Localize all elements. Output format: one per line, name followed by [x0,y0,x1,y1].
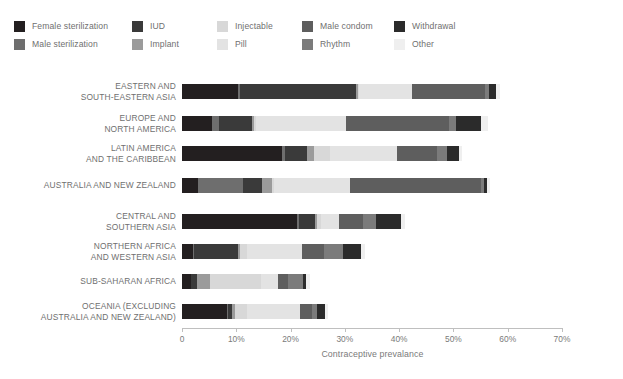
legend-item[interactable]: Implant [132,35,217,53]
bar-segment-female-sterilization[interactable] [182,304,227,319]
stacked-bar[interactable] [182,214,405,229]
legend-item[interactable]: Female sterilization [14,17,132,35]
stacked-bar-chart: Female sterilizationMale sterilizationIU… [0,0,623,379]
bar-segment-male-condom[interactable] [339,214,362,229]
legend-swatch-male-condom [302,21,313,32]
bar-segment-rhythm[interactable] [324,244,343,259]
bar-row [182,304,562,319]
bar-segment-female-sterilization[interactable] [182,178,198,193]
bar-segment-implant[interactable] [262,178,272,193]
bar-segment-pill[interactable] [256,116,346,131]
bar-row [182,146,562,161]
bar-segment-injectable[interactable] [210,274,261,289]
legend-item-label: Implant [150,39,179,50]
bar-segment-iud[interactable] [219,116,252,131]
category-label-line: AUSTRALIA AND NEW ZEALAND [8,180,176,190]
stacked-bar[interactable] [182,304,328,319]
x-tick-mark [291,328,292,332]
category-label-line: AND THE CARIBBEAN [8,154,176,164]
bar-row [182,244,562,259]
bar-segment-implant[interactable] [197,274,210,289]
bar-row [182,178,562,193]
bar-segment-female-sterilization[interactable] [182,116,212,131]
stacked-bar[interactable] [182,274,310,289]
category-label-line: NORTH AMERICA [8,124,176,134]
bar-segment-male-condom[interactable] [412,84,486,99]
bar-segment-male-sterilization[interactable] [198,178,244,193]
bar-segment-pill[interactable] [359,84,411,99]
bar-segment-other[interactable] [306,274,309,289]
bar-segment-rhythm[interactable] [363,214,377,229]
bar-segment-other[interactable] [325,304,328,319]
bar-segment-withdrawal[interactable] [447,146,459,161]
bar-segment-injectable[interactable] [240,244,247,259]
bar-segment-rhythm[interactable] [437,146,447,161]
bar-segment-withdrawal[interactable] [317,304,325,319]
bar-segment-rhythm[interactable] [288,274,303,289]
bar-segment-pill[interactable] [330,146,397,161]
bar-segment-iud[interactable] [299,214,315,229]
stacked-bar[interactable] [182,244,365,259]
x-tick-label: 10% [228,334,245,345]
legend-item[interactable]: Rhythm [302,35,394,53]
bar-segment-female-sterilization[interactable] [182,214,297,229]
legend-item[interactable]: Withdrawal [394,17,494,35]
stacked-bar[interactable] [182,178,490,193]
bar-segment-male-condom[interactable] [278,274,288,289]
bar-segment-female-sterilization[interactable] [182,274,191,289]
bar-segment-iud[interactable] [243,178,262,193]
bar-segment-other[interactable] [459,146,462,161]
bar-segment-iud[interactable] [285,146,307,161]
bar-segment-implant[interactable] [307,146,315,161]
chart-legend: Female sterilizationMale sterilizationIU… [14,17,534,53]
bar-segment-female-sterilization[interactable] [182,244,193,259]
category-axis-labels: EASTERN ANDSOUTH-EASTERN ASIAEUROPE ANDN… [8,74,176,329]
bar-segment-pill[interactable] [261,274,278,289]
legend-swatch-pill [217,39,228,50]
stacked-bar[interactable] [182,84,500,99]
legend-item[interactable]: IUD [132,17,217,35]
x-axis-title: Contraceptive prevalance [182,349,563,359]
category-label-line: AND WESTERN ASIA [8,252,176,262]
legend-item[interactable]: Male condom [302,17,394,35]
bar-segment-pill[interactable] [321,214,339,229]
bar-segment-male-sterilization[interactable] [212,116,219,131]
bar-segment-male-condom[interactable] [300,304,312,319]
x-tick-label: 70% [554,334,571,345]
bar-segment-injectable[interactable] [314,146,330,161]
bar-segment-pill[interactable] [247,304,300,319]
x-tick-mark [453,328,454,332]
category-label: SUB-SAHARAN AFRICA [8,276,176,286]
bar-segment-withdrawal[interactable] [456,116,482,131]
bar-segment-withdrawal[interactable] [376,214,401,229]
stacked-bar[interactable] [182,116,488,131]
legend-item[interactable]: Pill [217,35,302,53]
bar-segment-other[interactable] [481,116,488,131]
bar-row [182,274,562,289]
bar-segment-male-condom[interactable] [346,116,449,131]
legend-item[interactable]: Injectable [217,17,302,35]
bar-segment-withdrawal[interactable] [489,84,497,99]
bar-segment-male-condom[interactable] [397,146,437,161]
legend-item[interactable]: Male sterilization [14,35,132,53]
bar-segment-iud[interactable] [194,244,239,259]
bar-segment-female-sterilization[interactable] [182,146,282,161]
category-label-line: AUSTRALIA AND NEW ZEALAND) [8,312,176,322]
bar-segment-other[interactable] [401,214,404,229]
category-label-line: CENTRAL AND [8,211,176,221]
x-tick-label: 0 [180,334,185,345]
bar-segment-other[interactable] [361,244,365,259]
bar-segment-withdrawal[interactable] [343,244,360,259]
legend-item[interactable]: Other [394,35,494,53]
bar-segment-pill[interactable] [247,244,302,259]
bar-segment-female-sterilization[interactable] [182,84,238,99]
bar-segment-male-condom[interactable] [302,244,324,259]
bar-segment-pill[interactable] [274,178,350,193]
stacked-bar[interactable] [182,146,462,161]
legend-swatch-male-sterilization [14,39,25,50]
bar-segment-male-condom[interactable] [350,178,481,193]
bar-segment-iud[interactable] [240,84,357,99]
bar-segment-injectable[interactable] [235,304,247,319]
bar-segment-other[interactable] [496,84,500,99]
bar-segment-other[interactable] [487,178,490,193]
